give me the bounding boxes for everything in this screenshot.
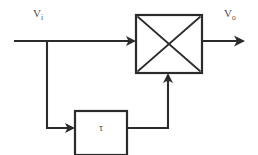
block-diagram-canvas: τ V i V o	[0, 0, 258, 155]
output-label-base: V	[224, 7, 232, 19]
branch-signal-wire	[47, 41, 75, 133]
output-label-subscript: o	[232, 13, 236, 22]
output-signal-wire	[202, 36, 245, 47]
delay-output-wire	[127, 73, 173, 128]
input-label-subscript: i	[41, 13, 43, 22]
input-signal-wire	[14, 36, 136, 46]
output-label: V o	[224, 7, 236, 22]
input-label-base: V	[33, 7, 41, 19]
delay-block[interactable]: τ	[75, 111, 127, 155]
mixer-block[interactable]	[136, 15, 202, 73]
input-label: V i	[33, 7, 43, 22]
block-diagram-svg: τ V i V o	[0, 0, 258, 155]
delay-block-symbol: τ	[99, 122, 103, 133]
delay-block-outline	[75, 111, 127, 155]
